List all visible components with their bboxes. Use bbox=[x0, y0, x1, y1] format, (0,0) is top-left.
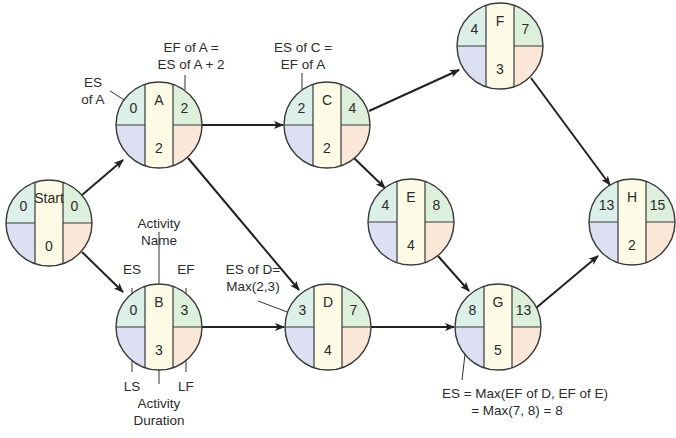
ef-value: 0 bbox=[71, 198, 79, 214]
leader-es-of-d bbox=[258, 301, 290, 313]
edge-start-b bbox=[82, 252, 123, 292]
activity-name: D bbox=[323, 294, 333, 310]
edge-c-e bbox=[354, 158, 385, 188]
annotation-ls-label: LS bbox=[124, 379, 141, 394]
lf-quadrant bbox=[341, 125, 370, 168]
lf-quadrant bbox=[512, 327, 541, 370]
activity-name: H bbox=[627, 189, 637, 205]
activity-duration: 5 bbox=[494, 342, 502, 358]
annotation-es-label: ES bbox=[123, 262, 141, 277]
es-value: 4 bbox=[382, 197, 390, 213]
ef-value: 4 bbox=[349, 100, 357, 116]
node-f: 47F3 bbox=[457, 3, 543, 89]
es-value: 2 bbox=[298, 100, 306, 116]
ef-value: 2 bbox=[181, 100, 189, 116]
node-h: 1315H2 bbox=[589, 179, 675, 265]
annotation-activity-duration-2: Duration bbox=[133, 413, 184, 428]
es-value: 3 bbox=[299, 302, 307, 318]
activity-name: B bbox=[154, 294, 163, 310]
node-d: 37D4 bbox=[285, 284, 371, 370]
node-start: 00Start0 bbox=[6, 180, 92, 266]
annotation-activity-name-1: Activity bbox=[138, 216, 181, 231]
ef-value: 7 bbox=[522, 21, 530, 37]
annotation-es-of-c-1: ES of C = bbox=[274, 40, 332, 55]
annotation-es-of-d-2: Max(2,3) bbox=[226, 279, 279, 294]
activity-name: A bbox=[154, 92, 164, 108]
lf-quadrant bbox=[514, 46, 543, 89]
activity-name: G bbox=[493, 294, 504, 310]
nodes: 00Start002A203B324C237D448E447F3813G5131… bbox=[6, 3, 675, 370]
activity-duration: 4 bbox=[407, 237, 415, 253]
node-g: 813G5 bbox=[455, 284, 541, 370]
annotation-ef-of-a-2: ES of A + 2 bbox=[157, 57, 224, 72]
activity-name: E bbox=[406, 189, 415, 205]
node-e: 48E4 bbox=[368, 179, 454, 265]
edge-start-a bbox=[82, 160, 123, 195]
activity-duration: 3 bbox=[155, 342, 163, 358]
activity-duration: 2 bbox=[155, 140, 163, 156]
es-value: 8 bbox=[469, 302, 477, 318]
edge-c-f bbox=[369, 70, 459, 111]
annotation-ef-of-a-1: EF of A = bbox=[163, 40, 218, 55]
ef-value: 3 bbox=[181, 302, 189, 318]
activity-duration: 3 bbox=[496, 61, 504, 77]
lf-quadrant bbox=[646, 222, 675, 265]
annotation-es-of-g-2: = Max(7, 8) = 8 bbox=[471, 403, 563, 418]
node-c: 24C2 bbox=[284, 82, 370, 168]
ef-value: 15 bbox=[650, 197, 666, 213]
annotation-activity-name-2: Name bbox=[141, 233, 177, 248]
activity-name: C bbox=[322, 92, 332, 108]
ls-quadrant bbox=[284, 125, 313, 168]
ef-value: 8 bbox=[433, 197, 441, 213]
ef-value: 7 bbox=[350, 302, 358, 318]
es-value: 0 bbox=[130, 302, 138, 318]
annotation-lf-label: LF bbox=[178, 379, 194, 394]
ef-value: 13 bbox=[516, 302, 532, 318]
activity-duration: 0 bbox=[45, 238, 53, 254]
lf-quadrant bbox=[173, 125, 202, 168]
node-b: 03B3 bbox=[116, 284, 202, 370]
pert-network-diagram: 00Start002A203B324C237D448E447F3813G5131… bbox=[0, 0, 676, 438]
activity-duration: 2 bbox=[323, 140, 331, 156]
ls-quadrant bbox=[368, 222, 397, 265]
annotation-activity-duration-1: Activity bbox=[138, 396, 181, 411]
annotation-ef-label: EF bbox=[177, 262, 194, 277]
edge-e-g bbox=[438, 256, 469, 291]
annotation-es-of-g-1: ES = Max(EF of D, EF of E) bbox=[442, 386, 608, 401]
ls-quadrant bbox=[285, 327, 314, 370]
annotation-es-of-c-2: EF of A bbox=[281, 57, 325, 72]
activity-duration: 2 bbox=[628, 237, 636, 253]
ls-quadrant bbox=[6, 223, 35, 266]
annotation-es-of-a-2: of A bbox=[81, 92, 104, 107]
es-value: 0 bbox=[20, 198, 28, 214]
edge-f-h bbox=[531, 78, 610, 185]
lf-quadrant bbox=[342, 327, 371, 370]
annotation-es-of-a-1: ES bbox=[84, 75, 102, 90]
es-value: 0 bbox=[130, 100, 138, 116]
es-value: 4 bbox=[471, 21, 479, 37]
activity-name: Start bbox=[34, 190, 64, 206]
es-value: 13 bbox=[599, 197, 615, 213]
ls-quadrant bbox=[589, 222, 618, 265]
ls-quadrant bbox=[455, 327, 484, 370]
ls-quadrant bbox=[116, 327, 145, 370]
node-a: 02A2 bbox=[116, 82, 202, 168]
lf-quadrant bbox=[63, 223, 92, 266]
edge-g-h bbox=[536, 256, 598, 308]
activity-duration: 4 bbox=[324, 342, 332, 358]
activity-name: F bbox=[496, 13, 505, 29]
annotation-es-of-d-1: ES of D= bbox=[226, 262, 281, 277]
lf-quadrant bbox=[173, 327, 202, 370]
ls-quadrant bbox=[457, 46, 486, 89]
